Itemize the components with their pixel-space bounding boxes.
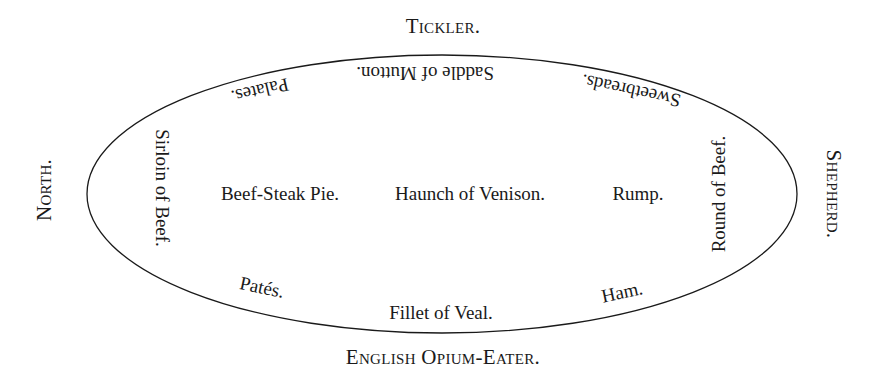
seat-shepherd: Shepherd.	[823, 150, 844, 239]
dish-round-of-beef: Round of Beef.	[709, 136, 728, 253]
dish-fillet-of-veal: Fillet of Veal.	[389, 303, 493, 322]
dish-haunch-of-venison: Haunch of Venison.	[395, 184, 545, 203]
dish-saddle-of-mutton: Saddle of Mutton.	[356, 64, 494, 83]
seat-tickler: Tickler.	[406, 16, 481, 37]
dish-rump: Rump.	[612, 184, 663, 203]
seat-english-opium-eater: English Opium-Eater.	[346, 347, 540, 368]
dish-sirloin-of-beef: Sirloin of Beef.	[153, 129, 172, 247]
seat-north: North.	[34, 159, 55, 221]
dish-beef-steak-pie: Beef-Steak Pie.	[221, 184, 339, 203]
